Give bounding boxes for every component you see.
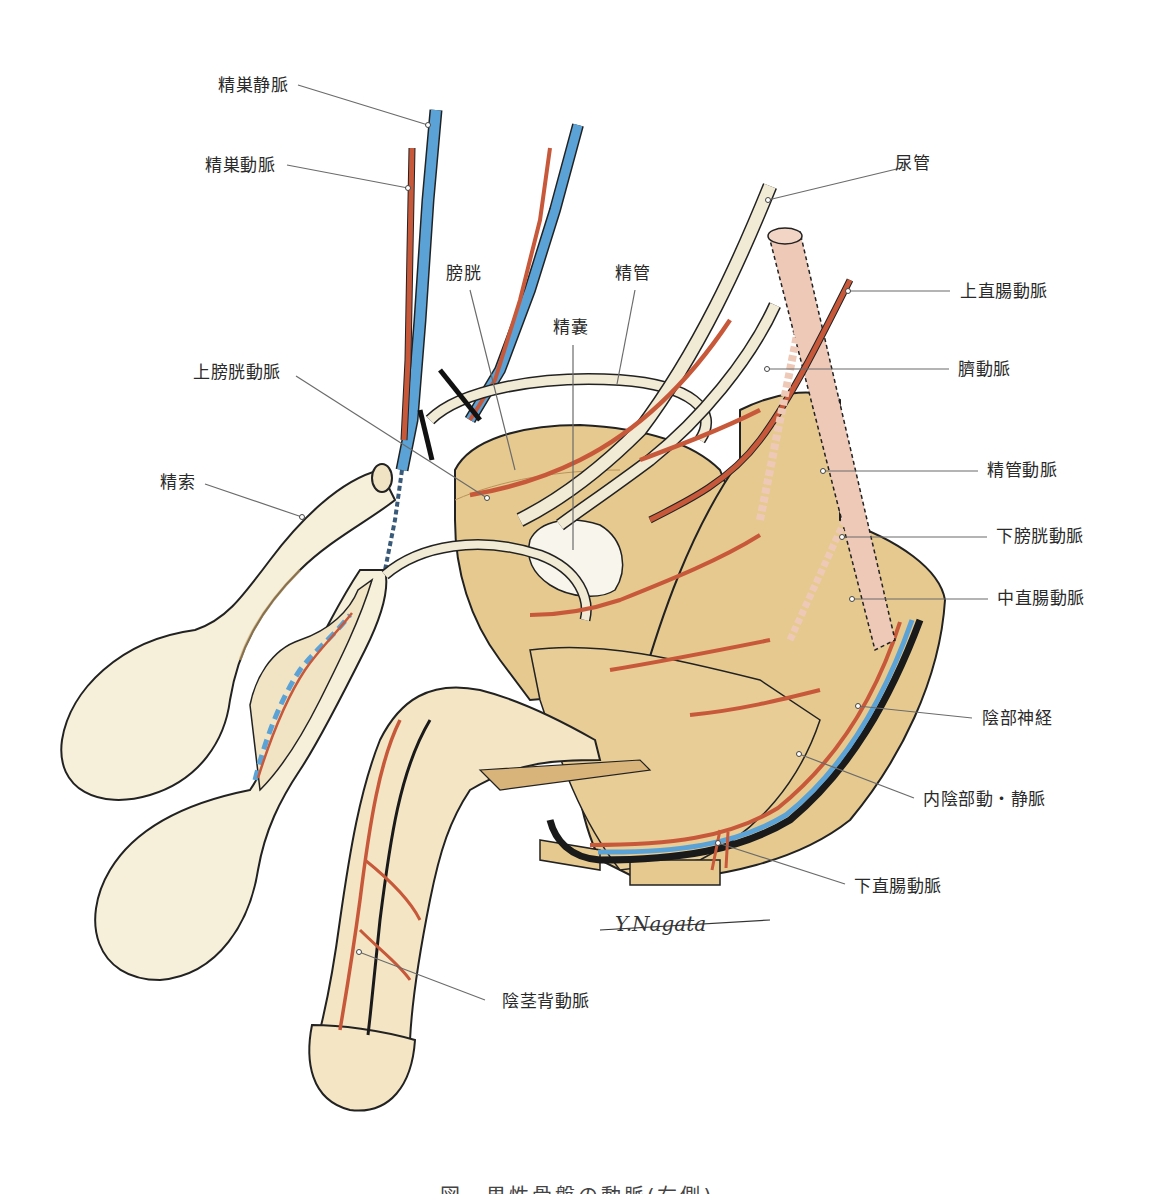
label-superior-vesical-artery: 上膀胱動脈 <box>193 362 281 382</box>
label-internal-pudendal-vessels: 内陰部動・静脈 <box>923 789 1046 809</box>
label-vas-deferens: 精管 <box>615 263 650 283</box>
label-dorsal-artery-of-penis: 陰茎背動脈 <box>502 991 590 1011</box>
anatomy-figure: 精巣静脈 精巣動脈 膀胱 精嚢 精管 尿管 上直腸動脈 臍動脈 上膀胱動脈 精索… <box>0 0 1154 1194</box>
label-bladder: 膀胱 <box>446 263 481 283</box>
label-inferior-rectal-artery: 下直腸動脈 <box>854 876 942 896</box>
figure-caption: 図 男性骨盤の動脈(右側) <box>0 1180 1154 1194</box>
label-seminal-vesicle: 精嚢 <box>553 317 588 337</box>
label-superior-rectal-artery: 上直腸動脈 <box>960 281 1048 301</box>
label-middle-rectal-artery: 中直腸動脈 <box>997 588 1085 608</box>
label-spermatic-cord: 精索 <box>160 472 195 492</box>
label-testicular-vein: 精巣静脈 <box>218 75 288 95</box>
label-pudendal-nerve: 陰部神経 <box>982 708 1052 728</box>
label-umbilical-artery: 臍動脈 <box>958 359 1011 379</box>
artist-signature: Y.Nagata <box>615 912 706 936</box>
label-testicular-artery: 精巣動脈 <box>205 155 275 175</box>
label-inferior-vesical-artery: 下膀胱動脈 <box>996 526 1084 546</box>
illustration <box>0 0 1154 1194</box>
label-ureter: 尿管 <box>895 153 930 173</box>
label-artery-of-vas-deferens: 精管動脈 <box>987 460 1057 480</box>
